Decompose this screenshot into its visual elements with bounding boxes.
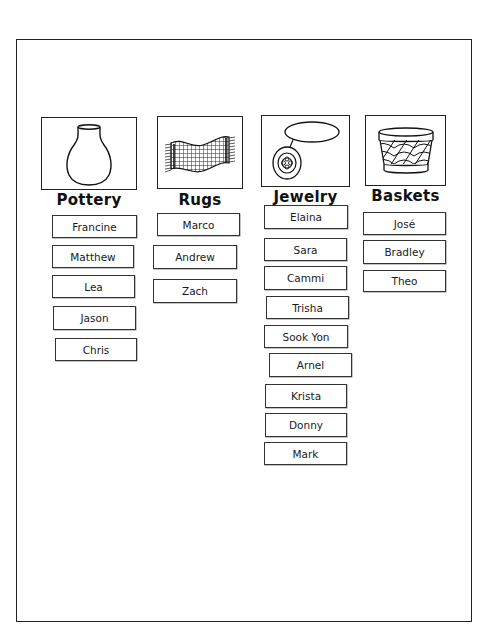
baskets-picture-box	[365, 115, 446, 186]
name-card[interactable]: Matthew	[52, 245, 134, 268]
name-card[interactable]: Francine	[52, 215, 137, 238]
category-label-pottery: Pottery	[41, 193, 137, 208]
name-card[interactable]: Sara	[264, 238, 347, 261]
name-card[interactable]: Trisha	[266, 296, 349, 319]
name-card[interactable]: Donny	[265, 413, 347, 437]
jewelry-picture-box	[261, 115, 350, 187]
basket-icon	[374, 126, 438, 176]
pottery-picture-box	[41, 117, 137, 190]
vase-icon	[59, 121, 119, 187]
rugs-picture-box	[157, 116, 243, 189]
name-card[interactable]: Krista	[265, 384, 347, 408]
name-card[interactable]: Elaina	[264, 205, 348, 229]
name-card[interactable]: Lea	[52, 275, 135, 298]
category-label-jewelry: Jewelry	[261, 190, 350, 205]
category-label-rugs: Rugs	[157, 193, 243, 208]
name-card[interactable]: Bradley	[363, 240, 446, 264]
name-card[interactable]: Sook Yon	[264, 325, 348, 348]
pendant-necklace-icon	[268, 119, 344, 183]
name-card[interactable]: Cammi	[264, 266, 347, 290]
name-card[interactable]: Andrew	[153, 245, 237, 269]
name-card[interactable]: Arnel	[269, 353, 352, 377]
name-card[interactable]: Chris	[55, 338, 137, 361]
name-card[interactable]: Jason	[53, 306, 136, 330]
name-card[interactable]: Marco	[157, 213, 240, 236]
name-card[interactable]: Theo	[363, 270, 446, 292]
name-card[interactable]: Mark	[264, 442, 347, 465]
rug-icon	[163, 129, 237, 177]
category-label-baskets: Baskets	[365, 189, 446, 204]
name-card[interactable]: José	[363, 212, 446, 235]
name-card[interactable]: Zach	[153, 279, 237, 303]
